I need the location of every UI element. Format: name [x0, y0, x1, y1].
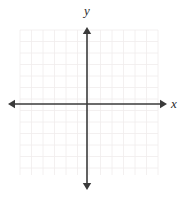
- coordinate-grid-figure: y x: [0, 0, 184, 197]
- x-axis-label: x: [171, 97, 177, 110]
- coordinate-plane-svg: [0, 0, 184, 197]
- y-axis-label: y: [84, 4, 90, 17]
- figure-background: [0, 0, 184, 197]
